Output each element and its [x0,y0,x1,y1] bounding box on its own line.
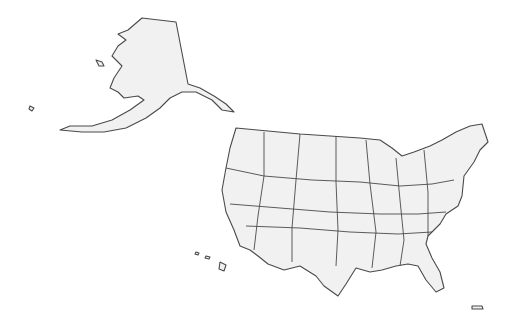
region-puerto-rico[interactable] [472,306,483,309]
region-hawaii[interactable] [195,252,226,271]
region-contiguous-us[interactable] [222,124,488,296]
region-alaska[interactable] [29,18,234,132]
us-states-map [0,0,509,326]
